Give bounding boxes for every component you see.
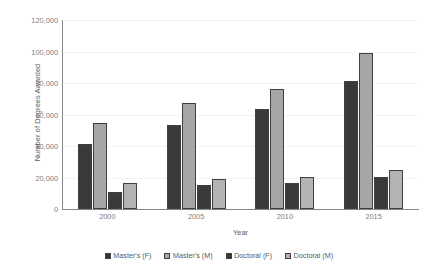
bar-doctoral-f--2005 (197, 185, 211, 209)
bar-master-s-f--2010 (255, 109, 269, 209)
bar-master-s-f--2000 (78, 144, 92, 209)
legend-swatch-icon (164, 253, 170, 259)
legend-swatch-icon (226, 253, 232, 259)
legend-item-master-s-f-[interactable]: Master's (F) (105, 251, 152, 260)
legend-swatch-icon (105, 253, 111, 259)
bar-doctoral-m--2010 (300, 177, 314, 209)
x-axis-tick-label: 2005 (188, 212, 204, 221)
y-axis-tick-label: 20,000 (6, 173, 58, 182)
y-axis-tick-label: 40,000 (6, 142, 58, 151)
x-axis-tick-labels: 2000200520102015 (63, 212, 418, 226)
legend-item-doctoral-m-[interactable]: Doctoral (M) (285, 251, 333, 260)
bar-master-s-m--2005 (182, 103, 196, 209)
bar-group-2010 (241, 20, 330, 209)
legend-swatch-icon (285, 253, 291, 259)
x-axis-line (62, 209, 419, 210)
y-axis-tick-label: 100,000 (6, 47, 58, 56)
bar-group-2005 (152, 20, 241, 209)
bar-master-s-m--2015 (359, 53, 373, 209)
bar-master-s-m--2010 (270, 89, 284, 209)
bar-doctoral-m--2000 (123, 183, 137, 209)
y-axis-tick-label: 120,000 (6, 16, 58, 25)
y-axis-tick-label: 80,000 (6, 79, 58, 88)
bar-group-2000 (63, 20, 152, 209)
legend-label: Doctoral (F) (234, 251, 272, 260)
legend-label: Doctoral (M) (294, 251, 334, 260)
x-axis-tick-label: 2000 (99, 212, 115, 221)
y-axis-tick-labels: 020,00040,00060,00080,000100,000120,000 (0, 0, 58, 279)
x-axis-title: Year (63, 228, 418, 237)
bar-master-s-m--2000 (93, 123, 107, 209)
bar-master-s-f--2005 (167, 125, 181, 209)
bar-doctoral-f--2015 (374, 177, 388, 209)
legend-item-doctoral-f-[interactable]: Doctoral (F) (226, 251, 272, 260)
bar-chart: Number of Degrees Awarded 020,00040,0006… (0, 0, 438, 279)
bar-doctoral-m--2005 (212, 179, 226, 209)
chart-legend: Master's (F)Master's (M)Doctoral (F)Doct… (0, 251, 438, 260)
bars-layer (63, 20, 418, 209)
legend-label: Master's (M) (173, 251, 213, 260)
y-axis-tick-label: 60,000 (6, 110, 58, 119)
x-axis-tick-label: 2010 (277, 212, 293, 221)
bar-doctoral-f--2010 (285, 183, 299, 209)
x-axis-tick-label: 2015 (365, 212, 381, 221)
bar-doctoral-f--2000 (108, 192, 122, 209)
legend-item-master-s-m-[interactable]: Master's (M) (164, 251, 212, 260)
bar-master-s-f--2015 (344, 81, 358, 209)
y-axis-tick-label: 0 (6, 205, 58, 214)
bar-group-2015 (329, 20, 418, 209)
bar-doctoral-m--2015 (389, 170, 403, 209)
legend-label: Master's (F) (113, 251, 151, 260)
